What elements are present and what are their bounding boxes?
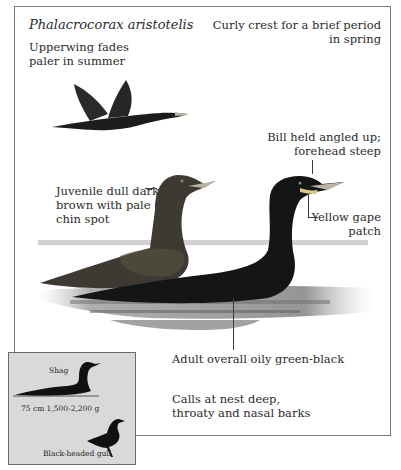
annotation-line: Bill held angled up; (267, 130, 381, 144)
annotation-line: Yellow gape (311, 210, 381, 224)
annotation-line: Upperwing fades (29, 40, 129, 54)
annotation-upperwing: Upperwing fades paler in summer (29, 40, 129, 68)
shag-silhouette-icon (13, 362, 101, 396)
annotation-line: forehead steep (267, 144, 381, 158)
annotation-bill: Bill held angled up; forehead steep (267, 130, 381, 158)
inset-gull-label: Black-headed gull (43, 449, 111, 458)
annotation-line: patch (311, 224, 381, 238)
adult-leader-line (233, 298, 234, 350)
annotation-calls: Calls at nest deep, throaty and nasal ba… (172, 392, 310, 420)
annotation-line: in spring (213, 32, 381, 46)
annotation-crest: Curly crest for a brief period in spring (213, 18, 381, 46)
annotation-line: paler in summer (29, 54, 129, 68)
annotation-line: Calls at nest deep, (172, 392, 310, 406)
annotation-line: Juvenile dull dark (56, 184, 159, 198)
annotation-line: chin spot (56, 212, 159, 226)
annotation-adult: Adult overall oily green-black (172, 352, 344, 366)
annotation-line: Curly crest for a brief period (213, 18, 381, 32)
annotation-line: throaty and nasal barks (172, 406, 310, 420)
species-name: Phalacrocorax aristotelis (29, 18, 193, 32)
annotation-gape: Yellow gape patch (311, 210, 381, 238)
gape-leader-vertical (308, 195, 309, 217)
bill-leader-line (312, 160, 313, 174)
inset-measurements: 75 cm 1,500-2,200 g (21, 404, 99, 413)
annotation-line: brown with pale (56, 198, 159, 212)
juvenile-leader-line (145, 188, 157, 189)
flying-shag-illustration (52, 80, 189, 130)
size-comparison-inset: Shag 75 cm 1,500-2,200 g Black-headed gu… (8, 352, 136, 465)
annotation-juvenile: Juvenile dull dark brown with pale chin … (56, 184, 159, 226)
